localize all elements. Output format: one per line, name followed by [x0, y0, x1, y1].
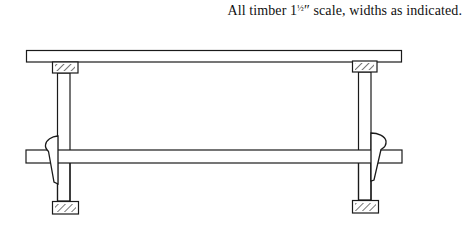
right-post	[359, 72, 372, 200]
timber-frame-diagram	[0, 0, 476, 226]
cross-bar	[26, 150, 402, 163]
top-board	[27, 51, 402, 63]
left-post	[58, 73, 71, 201]
